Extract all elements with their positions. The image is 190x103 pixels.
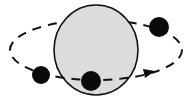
orbiting-body-top-right [149,17,169,37]
orbiting-body-left [32,66,50,84]
orbiting-body-bottom-center [81,71,101,91]
orbit-diagram [0,0,190,103]
direction-arrow-icon [143,69,155,78]
